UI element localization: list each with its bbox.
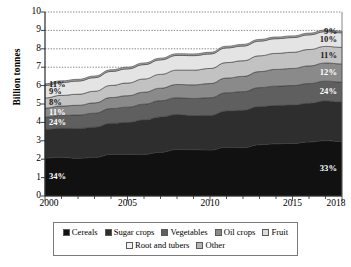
chart-figure: Billion tonnes 109876543210 11%9%8%11%24… bbox=[0, 0, 351, 267]
y-tick-8: 8 bbox=[21, 44, 41, 53]
x-tick-2005: 2005 bbox=[118, 198, 137, 208]
legend-item-root-and-tubers[interactable]: Root and tubers bbox=[126, 241, 189, 250]
x-tick-2015: 2015 bbox=[283, 198, 302, 208]
legend-swatch-icon bbox=[63, 229, 70, 236]
legend-item-oil-crops[interactable]: Oil crops bbox=[215, 228, 256, 237]
legend-label: Oil crops bbox=[224, 228, 256, 237]
legend-item-other[interactable]: Other bbox=[196, 241, 225, 250]
legend-item-cereals[interactable]: Cereals bbox=[63, 228, 98, 237]
legend-label: Vegetables bbox=[170, 228, 207, 237]
y-tick-5: 5 bbox=[21, 99, 41, 108]
pct-label-left-vegetables: 24% bbox=[49, 118, 66, 127]
legend-swatch-icon bbox=[161, 229, 168, 236]
legend-swatch-icon bbox=[126, 242, 133, 249]
y-tick-7: 7 bbox=[21, 62, 41, 71]
pct-label-right-root-and-tubers: 10% bbox=[320, 35, 337, 44]
legend-label: Cereals bbox=[72, 228, 98, 237]
legend-row-1: CerealsSugar cropsVegetablesOil cropsFru… bbox=[58, 226, 293, 239]
chart-legend: CerealsSugar cropsVegetablesOil cropsFru… bbox=[53, 222, 298, 256]
y-tick-9: 9 bbox=[21, 25, 41, 34]
x-tick-2010: 2010 bbox=[201, 198, 220, 208]
pct-label-right-vegetables: 24% bbox=[320, 87, 337, 96]
legend-label: Root and tubers bbox=[135, 241, 189, 250]
legend-swatch-icon bbox=[215, 229, 222, 236]
pct-label-right-cereals: 33% bbox=[320, 164, 337, 173]
legend-label: Sugar crops bbox=[114, 228, 155, 237]
y-tick-2: 2 bbox=[21, 154, 41, 163]
y-tick-6: 6 bbox=[21, 81, 41, 90]
legend-label: Other bbox=[205, 241, 225, 250]
stacked-area-svg bbox=[45, 12, 342, 202]
x-axis-tick-labels: 20002005201020152018 bbox=[0, 198, 351, 212]
legend-swatch-icon bbox=[196, 242, 203, 249]
pct-label-right-fruit: 11% bbox=[320, 51, 337, 60]
pct-label-left-fruit: 8% bbox=[49, 98, 62, 107]
pct-label-left-oil-crops: 11% bbox=[49, 108, 66, 117]
x-tick-2018: 2018 bbox=[327, 198, 346, 208]
pct-label-right-oil-crops: 12% bbox=[320, 68, 337, 77]
legend-swatch-icon bbox=[262, 229, 269, 236]
legend-swatch-icon bbox=[105, 229, 112, 236]
pct-label-left-cereals: 34% bbox=[49, 172, 66, 181]
legend-item-vegetables[interactable]: Vegetables bbox=[161, 228, 207, 237]
legend-label: Fruit bbox=[271, 228, 288, 237]
y-tick-1: 1 bbox=[21, 173, 41, 182]
legend-item-fruit[interactable]: Fruit bbox=[262, 228, 288, 237]
legend-item-sugar-crops[interactable]: Sugar crops bbox=[105, 228, 155, 237]
y-tick-10: 10 bbox=[21, 7, 41, 16]
y-tick-4: 4 bbox=[21, 117, 41, 126]
plot-area: 11%9%8%11%24%34%9%10%11%12%24%33% bbox=[45, 12, 342, 196]
x-tick-2000: 2000 bbox=[40, 198, 59, 208]
pct-label-left-root-and-tubers: 9% bbox=[49, 87, 62, 96]
legend-row-2: Root and tubersOther bbox=[58, 239, 293, 252]
y-axis-tick-labels: 109876543210 bbox=[17, 12, 41, 196]
y-tick-3: 3 bbox=[21, 136, 41, 145]
